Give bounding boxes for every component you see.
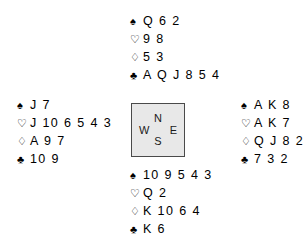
hand-west-spades: J 7 [30,96,51,114]
hand-south-diamonds-row: ♢ K 10 6 4 [130,202,213,220]
diamond-icon: ♢ [241,132,254,150]
hand-south-hearts: Q 2 [143,184,167,202]
compass-north-label: N [132,113,184,124]
compass-south-label: S [132,136,184,147]
club-icon: ♣ [241,150,254,168]
spade-icon: ♠ [130,12,143,30]
compass-box: N W E S [131,103,185,157]
hand-north-clubs-row: ♣ A Q J 8 5 4 [130,66,220,84]
hand-north-hearts-row: ♡ 9 8 [130,30,220,48]
spade-icon: ♠ [17,96,30,114]
hand-north-clubs: A Q J 8 5 4 [143,66,220,84]
hand-south-spades: 10 9 5 4 3 [143,166,213,184]
hand-west: ♠ J 7 ♡ J 10 6 5 4 3 ♢ A 9 7 ♣ 10 9 [17,96,112,168]
diamond-icon: ♢ [130,202,143,220]
compass-east-label: E [170,125,177,136]
hand-east-diamonds-row: ♢ Q J 8 2 [241,132,304,150]
hand-east-clubs: 7 3 2 [254,150,289,168]
hand-south-clubs: K 6 [143,220,166,238]
hand-north-diamonds-row: ♢ 5 3 [130,48,220,66]
hand-south-diamonds: K 10 6 4 [143,202,201,220]
hand-west-clubs-row: ♣ 10 9 [17,150,112,168]
hand-east: ♠ A K 8 ♡ A K 7 ♢ Q J 8 2 ♣ 7 3 2 [241,96,304,168]
hand-north-spades-row: ♠ Q 6 2 [130,12,220,30]
hand-south-hearts-row: ♡ Q 2 [130,184,213,202]
diamond-icon: ♢ [130,48,143,66]
diamond-icon: ♢ [17,132,30,150]
hand-south-spades-row: ♠ 10 9 5 4 3 [130,166,213,184]
heart-icon: ♡ [130,30,143,48]
spade-icon: ♠ [241,96,254,114]
compass-west-label: W [139,125,149,136]
hand-north: ♠ Q 6 2 ♡ 9 8 ♢ 5 3 ♣ A Q J 8 5 4 [130,12,220,84]
hand-west-hearts-row: ♡ J 10 6 5 4 3 [17,114,112,132]
hand-south: ♠ 10 9 5 4 3 ♡ Q 2 ♢ K 10 6 4 ♣ K 6 [130,166,213,238]
heart-icon: ♡ [17,114,30,132]
hand-west-clubs: 10 9 [30,150,60,168]
bridge-deal-diagram: ♠ Q 6 2 ♡ 9 8 ♢ 5 3 ♣ A Q J 8 5 4 ♠ J 7 … [0,0,308,252]
hand-east-hearts: A K 7 [254,114,291,132]
heart-icon: ♡ [241,114,254,132]
hand-south-clubs-row: ♣ K 6 [130,220,213,238]
hand-west-spades-row: ♠ J 7 [17,96,112,114]
club-icon: ♣ [130,220,143,238]
hand-west-diamonds: A 9 7 [30,132,66,150]
hand-east-spades: A K 8 [254,96,291,114]
club-icon: ♣ [130,66,143,84]
hand-east-hearts-row: ♡ A K 7 [241,114,304,132]
hand-west-diamonds-row: ♢ A 9 7 [17,132,112,150]
hand-north-spades: Q 6 2 [143,12,181,30]
hand-north-diamonds: 5 3 [143,48,165,66]
spade-icon: ♠ [130,166,143,184]
heart-icon: ♡ [130,184,143,202]
hand-east-clubs-row: ♣ 7 3 2 [241,150,304,168]
hand-east-spades-row: ♠ A K 8 [241,96,304,114]
hand-north-hearts: 9 8 [143,30,165,48]
club-icon: ♣ [17,150,30,168]
hand-west-hearts: J 10 6 5 4 3 [30,114,112,132]
hand-east-diamonds: Q J 8 2 [254,132,304,150]
